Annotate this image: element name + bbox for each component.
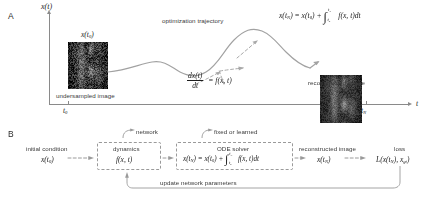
feedback-loop-label: update network parameters [160, 179, 237, 186]
panel-b-connectors [0, 0, 434, 203]
figure-root: A x(t) t t0 tN x(t0) undersampled image … [0, 0, 434, 203]
